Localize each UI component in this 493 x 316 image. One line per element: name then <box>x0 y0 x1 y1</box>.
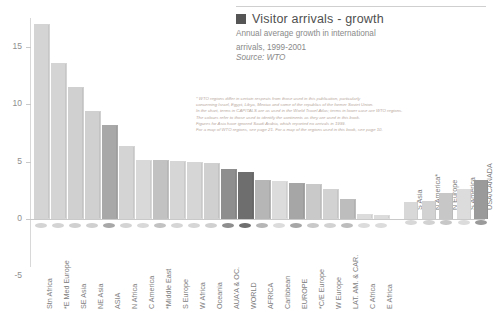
category-color-pill <box>137 223 149 228</box>
right-group-bar <box>404 202 418 219</box>
bar <box>34 24 50 219</box>
right-group-bar <box>439 193 453 219</box>
x-axis-label: LAT. AM. & CAR. <box>351 255 360 309</box>
category-color-pill <box>358 223 370 228</box>
x-axis-label: *Middle East <box>164 269 173 309</box>
x-axis-label: E Africa <box>385 284 394 309</box>
bar <box>51 63 67 219</box>
y-axis-tick-label: 15 <box>2 41 22 51</box>
bar <box>323 189 339 219</box>
x-axis-label: ASIA <box>113 293 122 309</box>
category-color-pill <box>103 223 115 228</box>
category-color-pill <box>375 223 387 228</box>
x-axis-label: *E Med Europe <box>62 260 71 309</box>
category-color-pill <box>307 223 319 228</box>
category-color-pill <box>154 223 166 228</box>
chart-root: Visitor arrivals - growth Annual average… <box>0 0 493 316</box>
y-axis-tick-label: -5 <box>2 270 22 280</box>
right-group-color-pill <box>440 220 452 225</box>
x-axis-label: EUROPE <box>300 279 309 309</box>
category-color-pill <box>273 223 285 228</box>
x-axis-label: Oceania <box>215 282 224 309</box>
x-axis-label: W Africa <box>198 282 207 309</box>
x-axis-label: AFRICA <box>266 283 275 309</box>
bar <box>187 162 203 219</box>
y-axis-tick-label: 0 <box>2 213 22 223</box>
x-axis-label: AUA'A & OC. <box>232 267 241 309</box>
x-axis-label: C America <box>147 276 156 309</box>
right-group-color-pill <box>405 220 417 225</box>
y-axis-tick-label: 10 <box>2 98 22 108</box>
x-axis-label: SE Asia <box>79 284 88 309</box>
category-color-pill <box>120 223 132 228</box>
bar <box>85 111 101 219</box>
x-axis-label: Stn Africa <box>45 278 54 309</box>
category-color-pill <box>86 223 98 228</box>
category-color-pill <box>35 223 47 228</box>
bar <box>374 215 390 219</box>
x-axis-label: W Europe <box>334 277 343 309</box>
plot-area: -5051015 Stn Africa*E Med EuropeSE AsiaN… <box>0 0 493 316</box>
right-group-color-pill <box>458 220 470 225</box>
category-color-pill <box>171 223 183 228</box>
category-color-pill <box>69 223 81 228</box>
category-color-pill <box>341 223 353 228</box>
x-axis-label: Caribbean <box>283 276 292 309</box>
bar <box>119 146 135 219</box>
category-color-pill <box>239 223 251 228</box>
bar <box>289 183 305 219</box>
category-color-pill <box>52 223 64 228</box>
right-group: S AsiaN America*N EuropeS AmericaUSA/CAN… <box>400 150 492 270</box>
x-axis-label: WORLD <box>249 282 258 309</box>
bar <box>357 214 373 219</box>
right-group-bar <box>422 201 436 219</box>
x-axis-label: S Europe <box>181 279 190 309</box>
y-axis-tick <box>26 219 31 220</box>
bar <box>68 87 84 219</box>
right-group-color-pill <box>475 220 487 225</box>
bar <box>102 125 118 219</box>
bar <box>340 199 356 219</box>
bar <box>238 172 254 219</box>
x-axis-label: *C/E Europe <box>317 269 326 309</box>
bar <box>221 169 237 219</box>
category-color-pill <box>188 223 200 228</box>
category-color-pill <box>290 223 302 228</box>
category-color-pill <box>324 223 336 228</box>
right-group-bar <box>474 180 488 219</box>
bar <box>255 180 271 219</box>
x-axis-label: NE Asia <box>96 283 105 309</box>
bar <box>136 160 152 219</box>
category-color-pill <box>256 223 268 228</box>
bar <box>272 181 288 219</box>
bar <box>153 160 169 219</box>
x-axis-label: N Africa <box>130 284 139 309</box>
bar <box>170 161 186 219</box>
right-group-color-pill <box>423 220 435 225</box>
bar <box>306 184 322 219</box>
y-axis-tick-label: 5 <box>2 156 22 166</box>
category-color-pill <box>222 223 234 228</box>
bar <box>204 163 220 219</box>
x-axis-label: C Africa <box>368 284 377 309</box>
category-color-pill <box>205 223 217 228</box>
right-group-bar <box>457 189 471 219</box>
